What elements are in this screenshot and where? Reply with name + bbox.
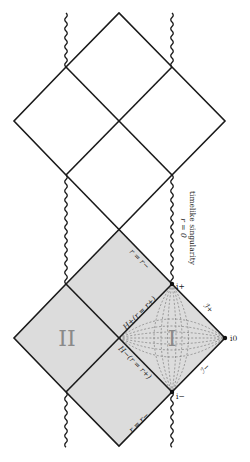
- singularity-left-top: [65, 13, 68, 67]
- region-two-label: II: [58, 326, 75, 351]
- singularity-left-middle: [65, 175, 68, 284]
- i-plus-point: [170, 282, 174, 286]
- i-plus-label: i+: [176, 282, 185, 291]
- singularity-annotation-line2: r = 0: [179, 218, 188, 238]
- i-minus-label: i−: [176, 392, 185, 401]
- penrose-diagram: II I H+(r = r+) H−(r = r+) r = r− r = r−…: [0, 0, 250, 462]
- singularity-left-bottom: [65, 392, 68, 447]
- singularity-right-middle: [171, 175, 174, 284]
- singularity-annotation: timelike singularity r = 0: [179, 191, 197, 266]
- i-zero-label: i0: [230, 334, 237, 343]
- i-minus-point: [170, 390, 174, 394]
- singularity-annotation-line1: timelike singularity: [188, 191, 197, 266]
- region-one-label: I: [168, 326, 177, 351]
- i-zero-point: [223, 336, 227, 340]
- singularity-right-top: [171, 13, 174, 67]
- singularity-right-bottom: [171, 392, 174, 447]
- scri-plus-label: ℐ+: [202, 301, 216, 315]
